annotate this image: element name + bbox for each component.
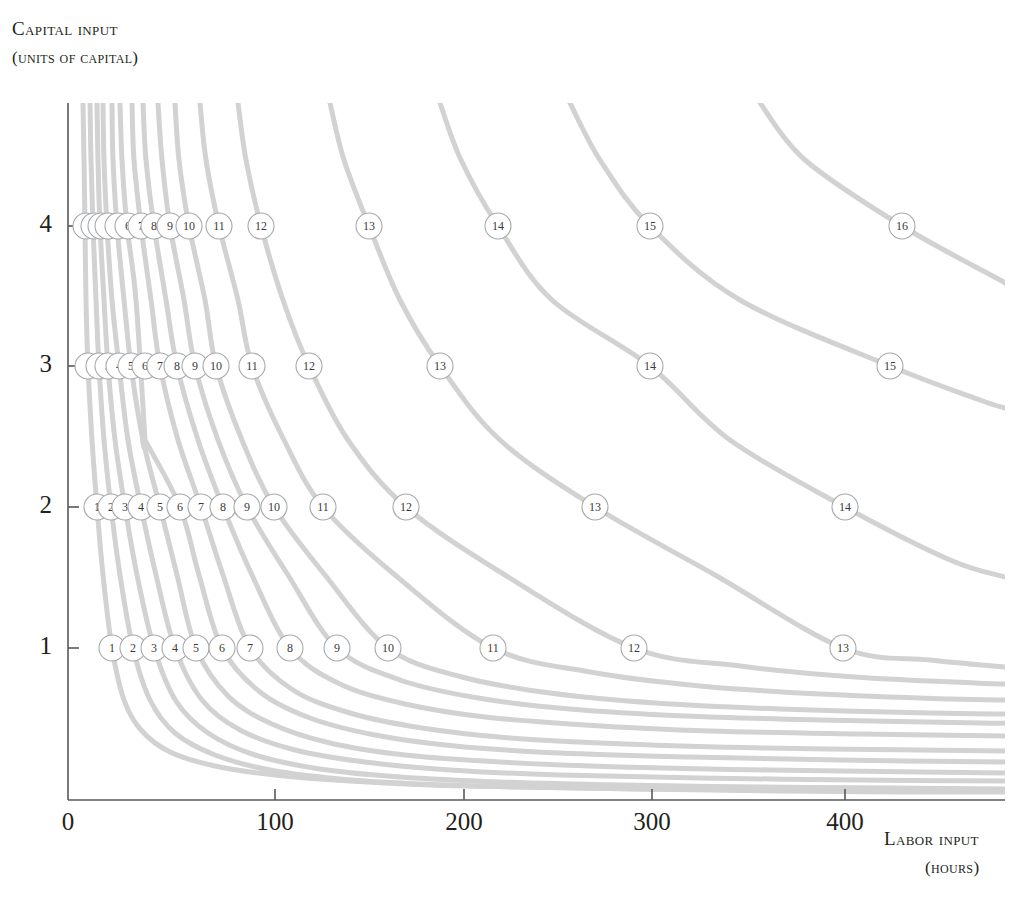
output-marker-label: 11 xyxy=(317,500,329,514)
isoquant-curve-16 xyxy=(760,103,1009,285)
output-marker-label: 7 xyxy=(198,500,204,514)
output-marker-label: 10 xyxy=(210,359,222,373)
isoquant-chart: Capital input (units of capital) Labor i… xyxy=(0,0,1034,917)
output-marker-label: 12 xyxy=(400,500,412,514)
output-marker-label: 8 xyxy=(287,641,293,655)
output-marker-label: 15 xyxy=(884,359,896,373)
output-marker-11-k1[interactable]: 11 xyxy=(480,635,506,661)
output-marker-label: 4 xyxy=(172,641,178,655)
isoquant-curve-7 xyxy=(132,103,1005,751)
output-marker-label: 14 xyxy=(644,359,656,373)
output-marker-12-k2[interactable]: 12 xyxy=(393,494,419,520)
output-marker-13-k2[interactable]: 13 xyxy=(582,494,608,520)
output-marker-label: 3 xyxy=(122,500,128,514)
output-marker-label: 15 xyxy=(644,219,656,233)
output-marker-label: 11 xyxy=(246,359,258,373)
output-marker-13-k3[interactable]: 13 xyxy=(427,353,453,379)
output-marker-8-k1[interactable]: 8 xyxy=(277,635,303,661)
x-tick-label-100: 100 xyxy=(245,808,305,836)
output-marker-label: 8 xyxy=(174,359,180,373)
isoquant-curve-13 xyxy=(330,103,1005,667)
output-marker-label: 12 xyxy=(255,219,267,233)
output-marker-10-k4[interactable]: 10 xyxy=(176,213,202,239)
output-marker-label: 6 xyxy=(177,500,183,514)
output-marker-15-k3[interactable]: 15 xyxy=(877,353,903,379)
x-tick-label-0: 0 xyxy=(38,808,98,836)
output-marker-label: 14 xyxy=(492,219,504,233)
output-marker-label: 13 xyxy=(589,500,601,514)
output-marker-label: 9 xyxy=(192,359,198,373)
output-marker-label: 10 xyxy=(268,500,280,514)
isoquant-curve-5 xyxy=(112,103,1005,773)
y-axis-title-line1: Capital input xyxy=(12,18,118,40)
isoquant-curves-layer xyxy=(83,103,1009,792)
output-marker-label: 13 xyxy=(363,219,375,233)
output-marker-label: 9 xyxy=(167,219,173,233)
output-marker-14-k3[interactable]: 14 xyxy=(637,353,663,379)
x-tick-label-300: 300 xyxy=(622,808,682,836)
x-axis-title-line2: (hours) xyxy=(925,858,979,878)
output-marker-label: 2 xyxy=(130,641,136,655)
output-marker-label: 11 xyxy=(213,219,225,233)
output-marker-label: 8 xyxy=(220,500,226,514)
output-marker-8-k2[interactable]: 8 xyxy=(210,494,236,520)
y-axis-title-line2: (units of capital) xyxy=(12,48,138,68)
output-marker-label: 10 xyxy=(382,641,394,655)
marker-row-capital-3: 123456789101112131415 xyxy=(75,353,903,379)
output-marker-7-k1[interactable]: 7 xyxy=(237,635,263,661)
output-marker-label: 9 xyxy=(244,500,250,514)
output-marker-13-k4[interactable]: 13 xyxy=(356,213,382,239)
output-marker-label: 7 xyxy=(247,641,253,655)
output-marker-label: 13 xyxy=(837,641,849,655)
output-marker-14-k4[interactable]: 14 xyxy=(485,213,511,239)
output-marker-label: 4 xyxy=(138,500,144,514)
output-marker-11-k3[interactable]: 11 xyxy=(239,353,265,379)
output-marker-label: 7 xyxy=(157,359,163,373)
output-marker-label: 5 xyxy=(193,641,199,655)
isoquant-curve-11 xyxy=(200,103,1005,700)
output-marker-11-k4[interactable]: 11 xyxy=(206,213,232,239)
plot-area: 1234567891011121314151612345678910111213… xyxy=(0,0,1034,917)
output-marker-label: 1 xyxy=(109,641,115,655)
output-marker-12-k3[interactable]: 12 xyxy=(296,353,322,379)
output-marker-label: 6 xyxy=(219,641,225,655)
output-marker-13-k1[interactable]: 13 xyxy=(830,635,856,661)
output-marker-9-k2[interactable]: 9 xyxy=(234,494,260,520)
isoquant-curve-14 xyxy=(440,103,1005,577)
isoquant-curve-10 xyxy=(175,103,1005,714)
output-marker-6-k1[interactable]: 6 xyxy=(209,635,235,661)
output-marker-label: 12 xyxy=(303,359,315,373)
y-tick-label-1: 1 xyxy=(18,632,52,660)
output-marker-10-k2[interactable]: 10 xyxy=(261,494,287,520)
output-marker-12-k1[interactable]: 12 xyxy=(621,635,647,661)
marker-row-capital-2: 1234567891011121314 xyxy=(84,494,858,520)
x-tick-label-200: 200 xyxy=(434,808,494,836)
output-marker-5-k1[interactable]: 5 xyxy=(183,635,209,661)
output-marker-label: 11 xyxy=(487,641,499,655)
output-marker-14-k2[interactable]: 14 xyxy=(832,494,858,520)
output-marker-label: 12 xyxy=(628,641,640,655)
output-marker-label: 3 xyxy=(151,641,157,655)
x-axis-title-line1: Labor input xyxy=(884,828,979,850)
output-marker-11-k2[interactable]: 11 xyxy=(310,494,336,520)
output-marker-label: 14 xyxy=(839,500,851,514)
y-tick-label-3: 3 xyxy=(18,350,52,378)
y-tick-label-2: 2 xyxy=(18,491,52,519)
output-marker-label: 13 xyxy=(434,359,446,373)
output-marker-label: 5 xyxy=(157,500,163,514)
y-tick-label-4: 4 xyxy=(18,210,52,238)
output-marker-10-k1[interactable]: 10 xyxy=(375,635,401,661)
output-marker-label: 16 xyxy=(896,219,908,233)
output-marker-label: 10 xyxy=(183,219,195,233)
output-marker-15-k4[interactable]: 15 xyxy=(637,213,663,239)
output-marker-label: 9 xyxy=(334,641,340,655)
output-marker-12-k4[interactable]: 12 xyxy=(248,213,274,239)
x-tick-label-400: 400 xyxy=(815,808,875,836)
marker-row-capital-4: 12345678910111213141516 xyxy=(73,213,915,239)
isoquant-curve-15 xyxy=(570,103,1005,408)
output-marker-16-k4[interactable]: 16 xyxy=(889,213,915,239)
output-marker-10-k3[interactable]: 10 xyxy=(203,353,229,379)
output-marker-9-k1[interactable]: 9 xyxy=(324,635,350,661)
output-marker-label: 8 xyxy=(151,219,157,233)
isoquant-curve-9 xyxy=(158,103,1005,723)
